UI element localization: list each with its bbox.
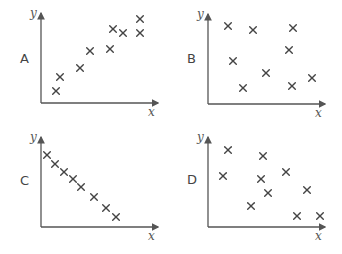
y-axis-label: y	[196, 130, 204, 144]
data-point-cross-icon	[61, 169, 68, 176]
data-point-cross-icon	[250, 27, 257, 34]
data-point-cross-icon	[309, 75, 316, 82]
data-point-cross-icon	[225, 23, 232, 30]
data-point-cross-icon	[110, 26, 117, 33]
y-axis-label: y	[29, 6, 37, 20]
data-point-cross-icon	[304, 187, 311, 194]
data-point-cross-icon	[240, 85, 247, 92]
data-point-cross-icon	[107, 46, 114, 53]
data-point-cross-icon	[57, 74, 64, 81]
data-point-cross-icon	[120, 30, 127, 37]
data-point-cross-icon	[263, 70, 270, 77]
y-axis-label: y	[29, 130, 37, 144]
data-point-cross-icon	[294, 213, 301, 220]
data-point-cross-icon	[113, 214, 120, 221]
y-axis-label: y	[196, 7, 204, 21]
panel-label: B	[187, 51, 196, 66]
data-point-cross-icon	[230, 58, 237, 65]
panel-b: Byx	[187, 7, 325, 120]
data-point-cross-icon	[265, 190, 272, 197]
x-axis-label: x	[148, 105, 155, 119]
x-axis-label: x	[148, 229, 155, 243]
data-point-cross-icon	[87, 48, 94, 55]
x-axis-label: x	[315, 229, 322, 243]
data-point-cross-icon	[53, 88, 60, 95]
data-point-cross-icon	[52, 161, 59, 168]
data-point-cross-icon	[317, 213, 324, 220]
data-point-cross-icon	[77, 65, 84, 72]
data-point-cross-icon	[225, 147, 232, 154]
x-axis-label: x	[315, 106, 322, 120]
data-point-cross-icon	[283, 169, 290, 176]
data-point-cross-icon	[248, 203, 255, 210]
data-point-cross-icon	[290, 25, 297, 32]
data-point-cross-icon	[78, 184, 85, 191]
data-point-cross-icon	[220, 173, 227, 180]
panel-d: Dyx	[187, 130, 325, 243]
data-point-cross-icon	[44, 152, 51, 159]
panel-c: Cyx	[20, 130, 158, 243]
panel-label: C	[20, 173, 29, 188]
data-point-cross-icon	[137, 16, 144, 23]
scatter-panels: AyxByxCyxDyx	[0, 0, 342, 254]
panel-label: D	[187, 172, 197, 187]
data-point-cross-icon	[103, 205, 110, 212]
data-point-cross-icon	[260, 153, 267, 160]
panel-label: A	[20, 51, 29, 66]
data-point-cross-icon	[137, 30, 144, 37]
panel-a: Ayx	[20, 6, 158, 119]
data-point-cross-icon	[289, 83, 296, 90]
data-point-cross-icon	[70, 176, 77, 183]
data-point-cross-icon	[258, 176, 265, 183]
data-point-cross-icon	[286, 47, 293, 54]
data-point-cross-icon	[91, 194, 98, 201]
